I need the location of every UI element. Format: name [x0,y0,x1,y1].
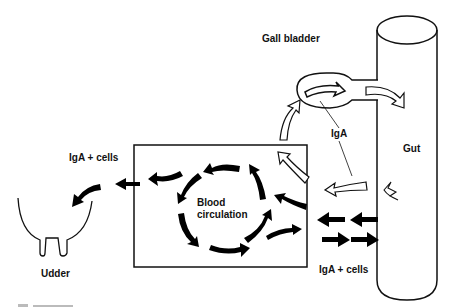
label-gall-bladder: Gall bladder [262,33,320,44]
label-iga: IgA [331,128,347,139]
label-circulation: circulation [197,209,248,220]
open-arrow-gut-inner [384,182,398,200]
open-arrow-iga-to-blood [325,182,367,196]
label-gut: Gut [403,143,420,154]
open-arrow-blood-to-gallbladder [280,100,300,140]
label-udder: Udder [41,268,70,279]
open-arrow-box-inner [278,152,309,183]
arrows-box-right [266,193,307,240]
label-blood: Blood [197,197,225,208]
arrows-blood-to-gut [322,232,379,247]
label-iga-cells-left: IgA + cells [69,152,118,163]
udder-shape [18,198,92,256]
label-iga-cells-bottom: IgA + cells [319,264,368,275]
gut-cylinder [377,16,437,300]
iga-pointer-line-2 [339,141,352,176]
arrows-to-udder [72,171,183,207]
arrows-gut-to-blood [317,212,378,227]
